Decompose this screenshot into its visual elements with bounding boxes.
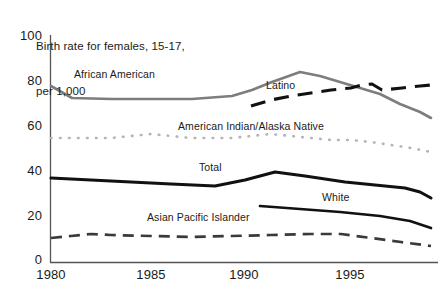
series-line-asian-pacific-islander	[51, 234, 431, 246]
x-tick-1980: 1980	[21, 267, 81, 282]
series-label-african-american: African American	[74, 68, 155, 80]
chart-title-line1: Birth rate for females, 15-17,	[36, 39, 185, 54]
series-label-american-indian-alaska-native: American Indian/Alaska Native	[178, 120, 324, 132]
series-label-white: White	[322, 191, 349, 203]
y-tick-100: 100	[8, 28, 42, 43]
x-tick-1995: 1995	[320, 267, 380, 282]
series-line-white	[260, 206, 431, 228]
x-tick-1990: 1990	[214, 267, 274, 282]
series-line-american-indian-alaska-native	[51, 134, 431, 152]
series-label-asian-pacific-islander: Asian Pacific Islander	[147, 211, 250, 223]
series-label-total: Total	[199, 161, 222, 173]
series-label-latino: Latino	[266, 79, 295, 91]
x-tick-1985: 1985	[121, 267, 181, 282]
chart-container: Birth rate for females, 15-17, per 1,000…	[0, 0, 439, 292]
y-tick-80: 80	[8, 73, 42, 88]
y-tick-20: 20	[8, 208, 42, 223]
y-tick-40: 40	[8, 163, 42, 178]
y-tick-0: 0	[8, 252, 42, 267]
series-line-total	[51, 172, 431, 198]
y-tick-60: 60	[8, 118, 42, 133]
chart-title-line2: per 1,000	[36, 84, 185, 99]
